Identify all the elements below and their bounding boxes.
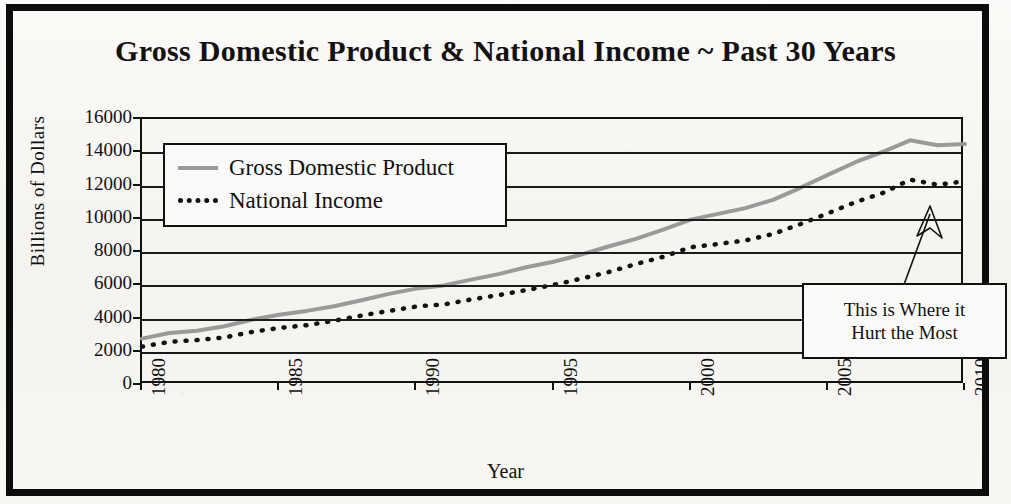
annotation-callout: This is Where it Hurt the Most — [802, 283, 1007, 359]
solid-line-swatch-icon — [175, 166, 221, 170]
y-axis-tick-label: 12000 — [85, 173, 133, 195]
y-axis-tick-mark — [133, 283, 141, 285]
y-axis-tick-label: 2000 — [94, 339, 132, 361]
y-axis-tick-mark — [133, 250, 141, 252]
gridline — [142, 252, 961, 254]
x-axis-tick-mark — [552, 383, 554, 390]
y-axis-tick-mark — [133, 150, 141, 152]
x-axis-tick-mark — [414, 383, 416, 390]
y-axis-tick-label: 4000 — [94, 306, 132, 328]
y-axis-tick-mark — [133, 184, 141, 186]
x-axis-tick-mark — [689, 383, 691, 390]
x-axis-tick-label: 2000 — [697, 358, 719, 396]
legend-label-national-income: National Income — [221, 188, 383, 214]
annotation-line-1: This is Where it — [844, 298, 966, 321]
legend-item-national-income: National Income — [175, 184, 495, 217]
x-axis-tick-label: 1995 — [560, 358, 582, 396]
y-axis-tick-mark — [133, 117, 141, 119]
annotation-line-2: Hurt the Most — [851, 321, 958, 344]
y-axis-tick-label: 0 — [123, 372, 133, 394]
chart-legend: Gross Domestic Product National Income — [163, 143, 507, 227]
y-axis-tick-label: 8000 — [94, 239, 132, 261]
x-axis-tick-label: 2010 — [971, 358, 993, 396]
chart-page: Gross Domestic Product & National Income… — [0, 0, 1011, 504]
y-axis-tick-mark — [133, 317, 141, 319]
y-axis-tick-mark — [133, 350, 141, 352]
x-axis-tick-label: 1980 — [148, 358, 170, 396]
x-axis-tick-mark — [140, 383, 142, 390]
y-axis-tick-label: 6000 — [94, 272, 132, 294]
x-axis-tick-label: 1990 — [422, 358, 444, 396]
x-axis-tick-label: 2005 — [834, 358, 856, 396]
y-axis-tick-label: 16000 — [85, 106, 133, 128]
chart-title: Gross Domestic Product & National Income… — [0, 34, 1011, 68]
x-axis-title: Year — [0, 460, 1011, 483]
legend-item-gdp: Gross Domestic Product — [175, 151, 495, 184]
x-axis-tick-mark — [963, 383, 965, 390]
y-axis-tick-mark — [133, 217, 141, 219]
y-axis-tick-label: 10000 — [85, 206, 133, 228]
dotted-line-swatch-icon — [175, 198, 221, 203]
x-axis-tick-label: 1985 — [285, 358, 307, 396]
legend-label-gdp: Gross Domestic Product — [221, 155, 454, 181]
x-axis-tick-mark — [826, 383, 828, 390]
y-axis-tick-labels: 1600014000120001000080006000400020000 — [40, 117, 132, 383]
y-axis-tick-label: 14000 — [85, 139, 133, 161]
x-axis-tick-mark — [277, 383, 279, 390]
